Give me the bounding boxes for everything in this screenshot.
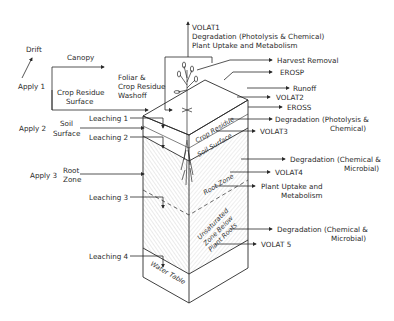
harvest-removal-label: Harvest Removal <box>277 56 338 65</box>
top-degradation-label: Degradation (Photolysis & Chemical) <box>192 32 324 41</box>
root-zone-label-1: Root <box>63 166 79 175</box>
apply1-label: Apply 1 <box>18 82 45 91</box>
leaching-2-label: Leaching 2 <box>89 133 128 142</box>
degradation-chemical-2-label-2: Microbial) <box>331 234 366 243</box>
canopy-label: Canopy <box>67 53 95 62</box>
apply2-label: Apply 2 <box>19 124 46 133</box>
crop-residue-surface-label-2: Surface <box>66 97 94 106</box>
plant-uptake-label-2: Metabolism <box>281 191 323 200</box>
degradation-chemical-1-label-1: Degradation (Chemical & <box>290 155 381 164</box>
soil-column-diagram: Crop Residue Soil Surface Root Zone Unsa… <box>0 0 394 321</box>
eross-label: EROSS <box>287 103 312 112</box>
plant-uptake-label-1: Plant Uptake and <box>261 182 323 191</box>
degradation-photolysis-label-2: Chemical) <box>330 124 366 133</box>
degradation-chemical-2-label-1: Degradation (Chemical & <box>277 225 368 234</box>
runoff-label: Runoff <box>293 84 317 93</box>
apply3-label: Apply 3 <box>30 171 57 180</box>
foliar-label-3: Washoff <box>118 91 148 100</box>
erosp-label: EROSP <box>280 68 305 77</box>
volat4-label: VOLAT4 <box>275 168 303 177</box>
degradation-chemical-1-label-2: Microbial) <box>344 164 379 173</box>
volat3-label: VOLAT3 <box>260 127 288 136</box>
volat5-label: VOLAT 5 <box>261 240 291 249</box>
soil-surface-label-2: Surface <box>53 129 81 138</box>
root-zone-label-2: Zone <box>63 175 82 184</box>
drift-label: Drift <box>26 45 42 54</box>
soil-surface-label-1: Soil <box>60 119 73 128</box>
degradation-photolysis-label-1: Degradation (Photolysis & <box>275 115 369 124</box>
crop-residue-surface-label-1: Crop Residue <box>57 88 105 97</box>
leaching-3-label: Leaching 3 <box>89 193 128 202</box>
volat1-label: VOLAT1 <box>192 23 220 32</box>
foliar-label-2: Crop Residue <box>118 82 166 91</box>
volat2-label: VOLAT2 <box>276 93 304 102</box>
leaching-4-label: Leaching 4 <box>89 252 129 261</box>
top-uptake-label: Plant Uptake and Metabolism <box>192 41 297 50</box>
foliar-label-1: Foliar & <box>118 73 146 82</box>
leaching-1-label: Leaching 1 <box>89 114 128 123</box>
left-face-hatch <box>143 136 189 274</box>
